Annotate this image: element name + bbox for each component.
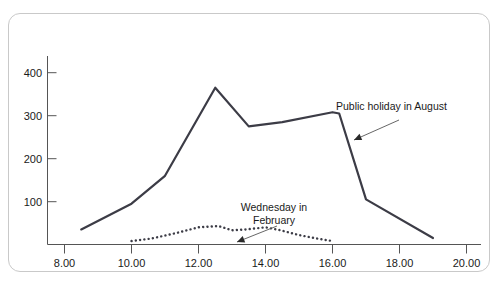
x-axis-ticks <box>65 245 467 254</box>
y-tick-label-200: 200 <box>24 153 42 165</box>
x-tick-label-1400: 14.00 <box>252 257 280 269</box>
x-tick-label-2000: 20.00 <box>453 257 481 269</box>
y-axis-tick-labels: 400 300 200 100 <box>24 67 42 208</box>
x-axis-tick-labels: 8.00 10.00 12.00 14.00 16.00 18.00 20.00 <box>54 257 480 269</box>
x-tick-label-1600: 16.00 <box>319 257 347 269</box>
annotation-february-label: Wednesday inFebruary <box>241 201 308 226</box>
y-tick-label-300: 300 <box>24 110 42 122</box>
line-chart: 400 300 200 100 8.00 10.00 12.00 14.00 1… <box>9 14 491 273</box>
series-line-february <box>132 226 333 241</box>
x-tick-label-1000: 10.00 <box>118 257 146 269</box>
y-tick-label-400: 400 <box>24 67 42 79</box>
annotation-august-label: Public holiday in August <box>336 100 447 112</box>
x-tick-label-1800: 18.00 <box>386 257 414 269</box>
x-tick-label-0800: 8.00 <box>54 257 75 269</box>
y-tick-label-100: 100 <box>24 196 42 208</box>
annotation-february: Wednesday inFebruary <box>237 201 307 242</box>
x-tick-label-1200: 12.00 <box>185 257 213 269</box>
y-axis-ticks <box>48 73 57 202</box>
annotation-august: Public holiday in August <box>336 100 447 140</box>
chart-card: 400 300 200 100 8.00 10.00 12.00 14.00 1… <box>8 13 490 272</box>
